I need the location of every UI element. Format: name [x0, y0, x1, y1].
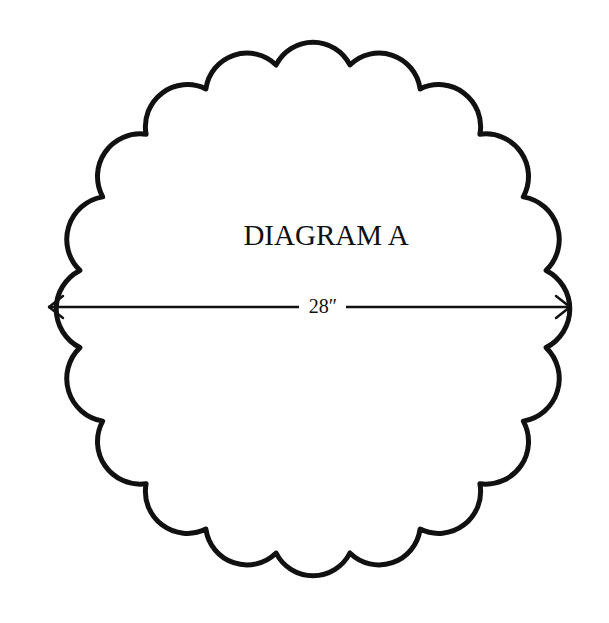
- diameter-label: 28″: [302, 293, 344, 319]
- diagram-title: DIAGRAM A: [0, 218, 609, 252]
